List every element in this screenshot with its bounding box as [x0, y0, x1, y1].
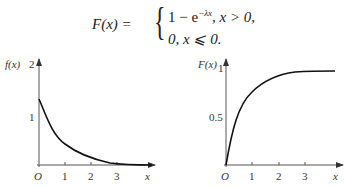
pdf-curve — [39, 99, 152, 165]
y-axis-label: F(x) — [197, 58, 217, 71]
x-tick-1: 1 — [62, 170, 68, 182]
origin-label: O — [34, 170, 42, 182]
x-tick-3: 3 — [302, 170, 308, 182]
x-tick-2: 2 — [88, 170, 94, 182]
x-tick-1: 1 — [249, 170, 255, 182]
x-tick-2: 2 — [276, 170, 282, 182]
pdf-chart: f(x) 2 1 O 1 2 3 x — [5, 58, 155, 182]
y-tick-1: 1 — [218, 62, 224, 74]
x-axis-label: x — [332, 170, 338, 182]
origin-label: O — [221, 170, 229, 182]
x-tick-3: 3 — [114, 170, 120, 182]
y-tick-1: 1 — [29, 111, 35, 123]
x-axis-label: x — [144, 170, 150, 182]
y-axis-label: f(x) — [5, 58, 21, 71]
charts: f(x) 2 1 O 1 2 3 x F(x) 1 0.5 O 1 2 3 x — [0, 0, 345, 188]
cdf-chart: F(x) 1 0.5 O 1 2 3 x — [197, 58, 343, 182]
cdf-curve — [226, 71, 335, 165]
y-tick-2: 2 — [29, 58, 35, 70]
y-tick-0.5: 0.5 — [209, 111, 223, 123]
